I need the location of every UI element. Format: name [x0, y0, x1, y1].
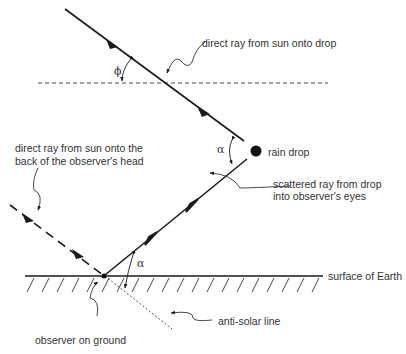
label-head-ray-1: direct ray from sun onto the	[15, 142, 143, 154]
label-head-ray-2: back of the observer's head	[15, 155, 144, 167]
label-direct-ray-drop: direct ray from sun onto drop	[202, 37, 336, 49]
leader-anti-solar	[171, 312, 212, 320]
arrowhead-icon	[186, 199, 198, 212]
direct-ray-to-drop	[65, 9, 244, 141]
leader-head-ray	[34, 168, 41, 210]
label-anti-solar: anti-solar line	[218, 315, 280, 327]
label-surface: surface of Earth	[328, 270, 402, 282]
alpha-angle-arc-ground	[125, 255, 133, 288]
rain-drop	[251, 146, 262, 157]
label-observer: observer on ground	[35, 334, 126, 346]
arrowhead-icon	[145, 232, 157, 245]
arrowhead-icon	[22, 213, 34, 223]
observer-point	[102, 274, 107, 279]
leader-observer	[90, 282, 98, 316]
leader-direct-ray-drop	[167, 42, 205, 73]
phi-symbol: ϕ	[114, 65, 122, 78]
label-scattered-ray-1: scattered ray from drop	[273, 178, 382, 190]
alpha-symbol-drop: α	[217, 143, 224, 156]
label-rain-drop: rain drop	[268, 146, 309, 158]
label-scattered-ray-2: into observer's eyes	[273, 190, 366, 202]
phi-angle-arc	[122, 60, 130, 81]
rainbow-geometry-diagram	[0, 0, 406, 354]
anti-solar-line	[105, 276, 172, 329]
alpha-angle-arc-drop	[230, 140, 233, 164]
ground-hatching	[27, 278, 319, 292]
alpha-symbol-ground: α	[137, 257, 144, 270]
